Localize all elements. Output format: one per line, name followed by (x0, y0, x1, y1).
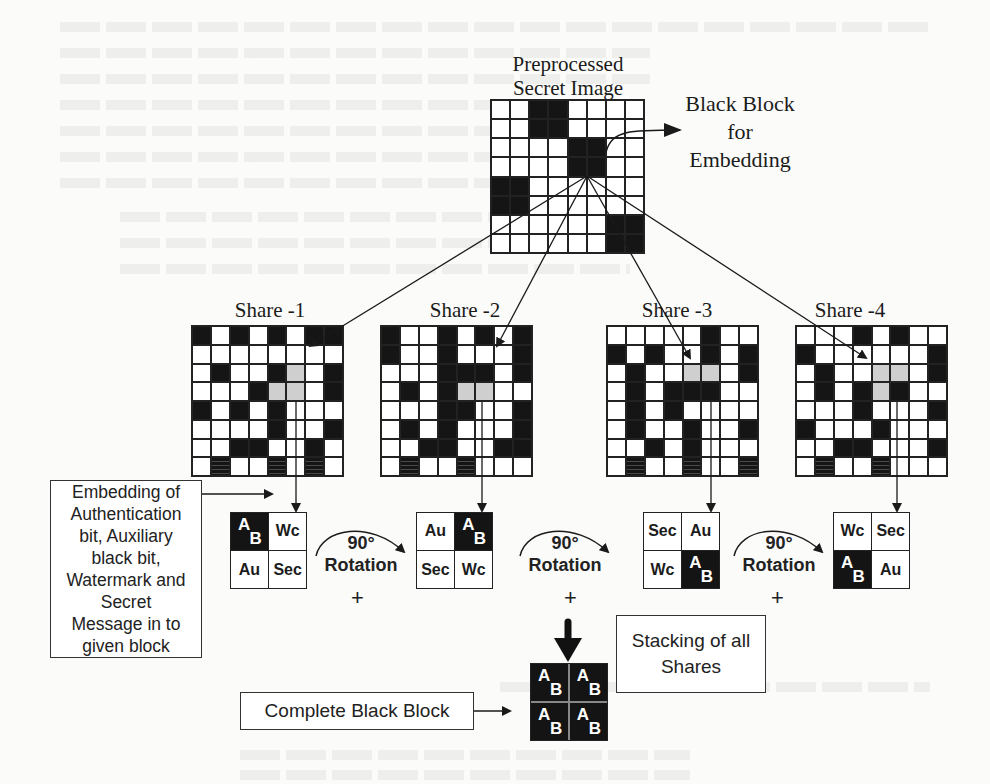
grid-cell (607, 158, 624, 175)
faint-line (60, 100, 490, 110)
letter-a: A (577, 705, 589, 725)
grid-cell (382, 458, 399, 475)
letter-a: A (462, 515, 474, 535)
grid-cell (665, 365, 682, 382)
plus-sign-1: + (351, 585, 364, 611)
grid-cell (702, 440, 719, 457)
grid-cell (873, 458, 890, 475)
grid-cell (458, 421, 475, 438)
grid-cell (495, 346, 512, 363)
faint-line (60, 152, 490, 162)
stacking-line1: Stacking of all (632, 628, 750, 654)
grid-cell (835, 458, 852, 475)
letter-b: B (550, 719, 562, 739)
grid-cell (607, 216, 624, 233)
grid-cell (250, 383, 267, 400)
grid-cell (250, 327, 267, 344)
grid-cell (492, 120, 509, 137)
grid-cell (627, 458, 644, 475)
grid-cell (835, 402, 852, 419)
embedding-line: Authentication (71, 503, 182, 525)
grid-cell (627, 402, 644, 419)
grid-cell (702, 327, 719, 344)
faint-line (120, 264, 630, 274)
auth-aux-quadrant: AB (455, 513, 492, 550)
grid-cell (854, 327, 871, 344)
grid-cell (439, 383, 456, 400)
grid-cell (458, 440, 475, 457)
grid-cell (797, 458, 814, 475)
grid-cell (476, 365, 493, 382)
grid-cell (212, 440, 229, 457)
grid-cell (420, 383, 437, 400)
auth-aux-quadrant: AB (570, 703, 607, 740)
quadrant-sec: Sec (269, 551, 306, 588)
grid-cell (702, 346, 719, 363)
grid-cell (511, 158, 528, 175)
grid-cell (929, 327, 946, 344)
grid-cell (569, 216, 586, 233)
grid-cell (854, 365, 871, 382)
grid-cell (607, 139, 624, 156)
grid-cell (250, 458, 267, 475)
grid-cell (325, 458, 342, 475)
grid-cell (816, 458, 833, 475)
grid-cell (306, 402, 323, 419)
grid-cell (476, 458, 493, 475)
grid-cell (854, 402, 871, 419)
grid-cell (646, 440, 663, 457)
grid-cell (608, 458, 625, 475)
grid-cell (511, 197, 528, 214)
grid-cell (646, 402, 663, 419)
grid-cell (193, 458, 210, 475)
grid-cell (401, 421, 418, 438)
grid-cell (231, 421, 248, 438)
grid-cell (530, 235, 547, 252)
grid-cell (721, 346, 738, 363)
grid-cell (740, 346, 757, 363)
grid-cell (250, 421, 267, 438)
grid-cell (439, 346, 456, 363)
embedding-cell (476, 383, 493, 400)
grid-cell (231, 402, 248, 419)
grid-cell (740, 458, 757, 475)
grid-cell (891, 383, 908, 400)
grid-cell (401, 327, 418, 344)
grid-cell (797, 365, 814, 382)
grid-cell (193, 327, 210, 344)
grid-cell (627, 365, 644, 382)
letter-b: B (474, 529, 486, 549)
share-3-grid (606, 325, 759, 477)
quadrant-wc: Wc (834, 513, 871, 550)
grid-cell (420, 421, 437, 438)
complete-black-block-box: Complete Black Block (240, 692, 474, 730)
grid-cell (721, 440, 738, 457)
grid-cell (476, 346, 493, 363)
faint-line (60, 22, 930, 32)
grid-cell (608, 421, 625, 438)
grid-cell (514, 365, 531, 382)
grid-cell (891, 440, 908, 457)
grid-cell (439, 440, 456, 457)
share-3-block: SecAuWcAB (643, 512, 720, 589)
grid-cell (231, 383, 248, 400)
share-2-label: Share -2 (400, 298, 530, 322)
auth-aux-quadrant: AB (682, 551, 719, 588)
grid-cell (797, 402, 814, 419)
grid-cell (684, 383, 701, 400)
auth-aux-quadrant: AB (531, 664, 568, 701)
grid-cell (511, 216, 528, 233)
grid-cell (626, 235, 643, 252)
grid-cell (401, 402, 418, 419)
grid-cell (511, 101, 528, 118)
grid-cell (492, 197, 509, 214)
grid-cell (495, 327, 512, 344)
grid-cell (929, 402, 946, 419)
grid-cell (231, 440, 248, 457)
grid-cell (193, 365, 210, 382)
grid-cell (382, 440, 399, 457)
grid-cell (458, 346, 475, 363)
grid-cell (816, 421, 833, 438)
grid-cell (212, 383, 229, 400)
embedding-cell (458, 383, 475, 400)
